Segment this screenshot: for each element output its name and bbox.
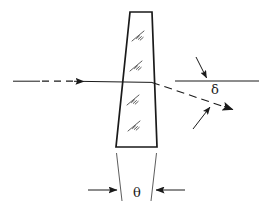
extension-line-left xyxy=(117,153,123,201)
wedge-prism xyxy=(116,12,157,147)
ray-through-prism xyxy=(84,81,152,82)
theta-label: θ xyxy=(133,186,141,199)
delta-dimension-arrow xyxy=(196,57,207,78)
hatch-mark xyxy=(132,31,144,41)
optical-wedge-diagram: δ θ xyxy=(0,0,266,210)
glass-hatch-marks xyxy=(127,31,144,131)
deviation-indicator-arrow xyxy=(193,107,210,129)
delta-label: δ xyxy=(211,83,219,96)
extension-line-right xyxy=(151,153,157,201)
hatch-mark xyxy=(127,95,139,105)
hatch-mark xyxy=(128,121,140,131)
diagram-canvas xyxy=(0,0,266,210)
hatch-mark xyxy=(130,61,142,71)
deviated-ray-arrowhead xyxy=(224,107,233,110)
